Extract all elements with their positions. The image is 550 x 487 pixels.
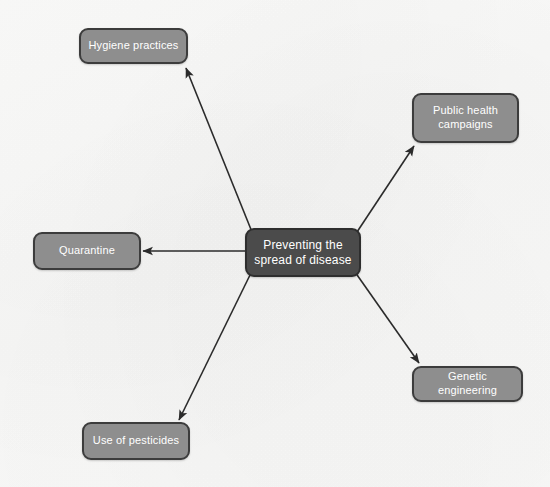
node-use-of-pesticides-label: Use of pesticides	[87, 434, 185, 448]
edge-public-health-campaigns	[355, 146, 414, 235]
edge-use-of-pesticides	[179, 275, 250, 420]
edge-genetic-engineering	[355, 272, 419, 363]
node-hygiene-practices-label: Hygiene practices	[83, 39, 185, 53]
node-genetic-engineering-label: Genetic engineering	[414, 370, 521, 398]
node-quarantine[interactable]: Quarantine	[33, 232, 141, 270]
node-public-health-campaigns[interactable]: Public health campaigns	[412, 93, 519, 143]
diagram-canvas: Preventing the spread of disease Hygiene…	[0, 0, 550, 487]
node-central[interactable]: Preventing the spread of disease	[245, 228, 361, 277]
node-use-of-pesticides[interactable]: Use of pesticides	[82, 422, 190, 460]
node-hygiene-practices[interactable]: Hygiene practices	[79, 28, 188, 64]
node-genetic-engineering[interactable]: Genetic engineering	[412, 366, 523, 402]
edge-hygiene-practices	[186, 68, 252, 232]
node-public-health-campaigns-label: Public health campaigns	[427, 104, 504, 132]
node-quarantine-label: Quarantine	[53, 244, 121, 258]
node-central-label: Preventing the spread of disease	[248, 238, 357, 268]
